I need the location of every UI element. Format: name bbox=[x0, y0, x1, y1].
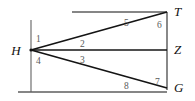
vertex-h-dot bbox=[29, 48, 32, 51]
point-label-h: H bbox=[10, 43, 21, 58]
angle-label-7: 7 bbox=[155, 77, 160, 87]
angle-label-3: 3 bbox=[80, 55, 85, 65]
angle-label-1: 1 bbox=[36, 34, 41, 44]
point-label-g: G bbox=[174, 80, 184, 95]
segment-ht bbox=[31, 12, 167, 50]
angle-label-6: 6 bbox=[157, 20, 162, 30]
figure-canvas: H T Z G 1 2 3 4 5 6 7 8 bbox=[0, 0, 195, 101]
segment-hg bbox=[31, 50, 167, 88]
angle-label-2: 2 bbox=[80, 39, 85, 49]
angle-label-8: 8 bbox=[124, 81, 129, 91]
angle-label-5: 5 bbox=[124, 18, 129, 28]
point-label-z: Z bbox=[174, 42, 182, 57]
angle-label-4: 4 bbox=[36, 56, 41, 66]
point-label-t: T bbox=[174, 4, 182, 19]
geometry-figure: H T Z G 1 2 3 4 5 6 7 8 bbox=[0, 0, 195, 101]
